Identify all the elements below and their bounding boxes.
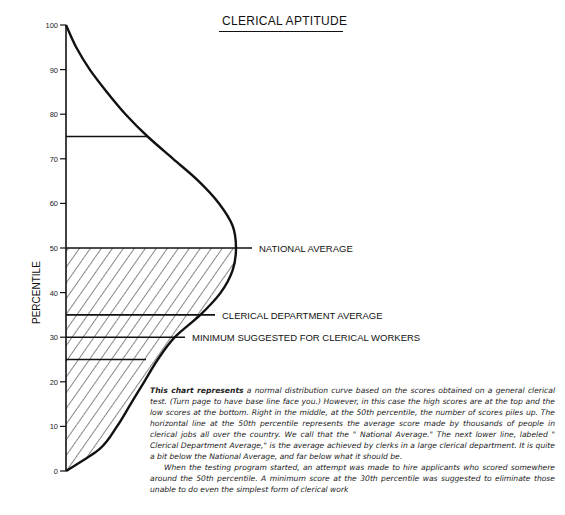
y-tick-label: 80 [50, 110, 58, 119]
reference-label-50: NATIONAL AVERAGE [259, 243, 353, 254]
y-tick-label: 60 [50, 199, 58, 208]
y-tick-label: 30 [50, 333, 58, 342]
y-tick-label: 10 [50, 422, 58, 431]
caption-lead: This chart represents [150, 386, 244, 395]
title-underline [219, 31, 343, 32]
y-tick-label: 70 [50, 155, 58, 164]
y-tick-label: 100 [45, 21, 58, 30]
chart-title: CLERICAL APTITUDE [222, 14, 347, 28]
y-axis-label: PERCENTILE [31, 261, 42, 324]
reference-label-35: CLERICAL DEPARTMENT AVERAGE [222, 310, 383, 321]
reference-label-30: MINIMUM SUGGESTED FOR CLERICAL WORKERS [192, 332, 420, 343]
y-tick-label: 50 [50, 244, 58, 253]
y-tick-label: 90 [50, 66, 58, 75]
y-tick-label: 20 [50, 378, 58, 387]
y-tick-label: 40 [50, 289, 58, 298]
y-tick-label: 0 [54, 467, 58, 476]
caption-paragraph-2: When the testing program started, an att… [150, 462, 555, 495]
caption-paragraph-1: a normal distribution curve based on the… [150, 386, 555, 461]
chart-caption: This chart represents a normal distribut… [150, 385, 555, 495]
